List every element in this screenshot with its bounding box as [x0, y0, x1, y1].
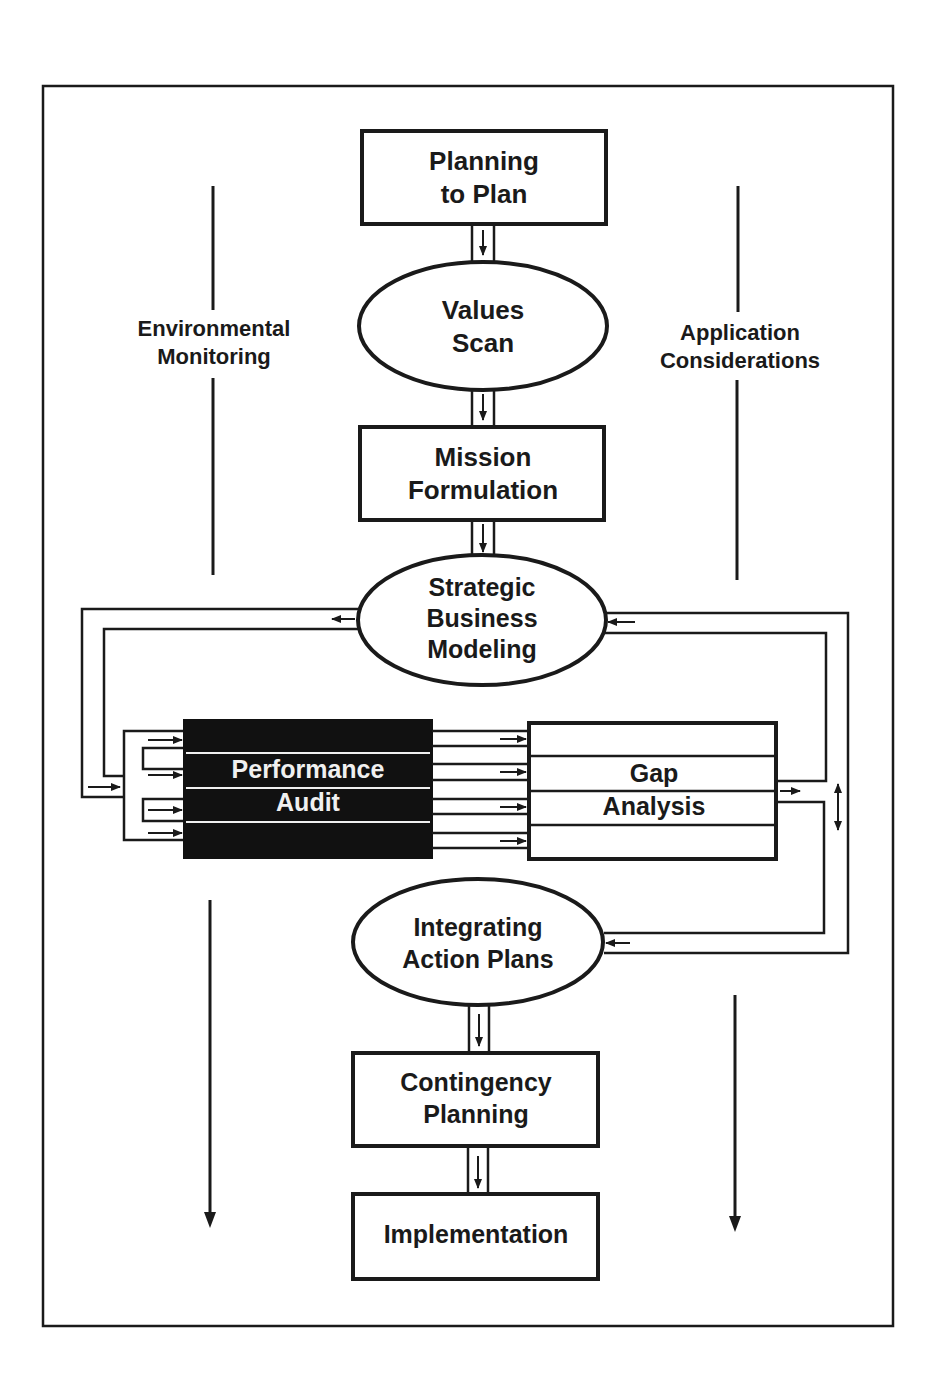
node-label: Planning [423, 1100, 529, 1128]
node-label: Gap [630, 759, 679, 787]
node-integrating-action-plans: Integrating Action Plans [353, 879, 603, 1005]
node-label: to Plan [441, 179, 528, 209]
side-label-left-2: Monitoring [157, 344, 271, 369]
node-label: Business [426, 604, 537, 632]
arrow-down-icon [204, 1212, 216, 1228]
node-label: Formulation [408, 475, 558, 505]
node-label: Audit [276, 788, 341, 816]
node-label: Strategic [429, 573, 536, 601]
node-label: Analysis [603, 792, 706, 820]
node-contingency-planning: Contingency Planning [353, 1053, 598, 1146]
left-side-column: Environmental Monitoring [138, 186, 291, 1228]
node-label: Contingency [400, 1068, 551, 1096]
node-values-scan: Values Scan [359, 262, 607, 390]
node-label: Scan [452, 328, 514, 358]
node-label: Mission [435, 442, 532, 472]
connector-integrating-contingency [469, 1005, 489, 1052]
strategic-planning-flowchart: Environmental Monitoring Application Con… [0, 0, 945, 1398]
node-label: Action Plans [402, 945, 553, 973]
node-label: Planning [429, 146, 539, 176]
node-planning-to-plan: Planning to Plan [362, 131, 606, 224]
node-performance-audit: Performance Audit [184, 720, 432, 858]
node-label: Integrating [413, 913, 542, 941]
side-label-right-2: Considerations [660, 348, 820, 373]
node-label: Modeling [427, 635, 537, 663]
node-label: Performance [232, 755, 385, 783]
side-label-left-1: Environmental [138, 316, 291, 341]
node-label: Values [442, 295, 524, 325]
right-side-column: Application Considerations [660, 186, 820, 1232]
node-label: Implementation [384, 1220, 569, 1248]
node-strategic-business-modeling: Strategic Business Modeling [358, 555, 606, 685]
node-mission-formulation: Mission Formulation [360, 427, 604, 520]
connector-values-mission [472, 390, 494, 427]
connector-contingency-implementation [468, 1146, 488, 1194]
node-implementation: Implementation [353, 1194, 598, 1279]
node-gap-analysis: Gap Analysis [529, 723, 776, 859]
connector-planning-values [472, 224, 494, 262]
arrow-down-icon [729, 1216, 741, 1232]
connector-audit-gap [432, 731, 528, 848]
side-label-right-1: Application [680, 320, 800, 345]
